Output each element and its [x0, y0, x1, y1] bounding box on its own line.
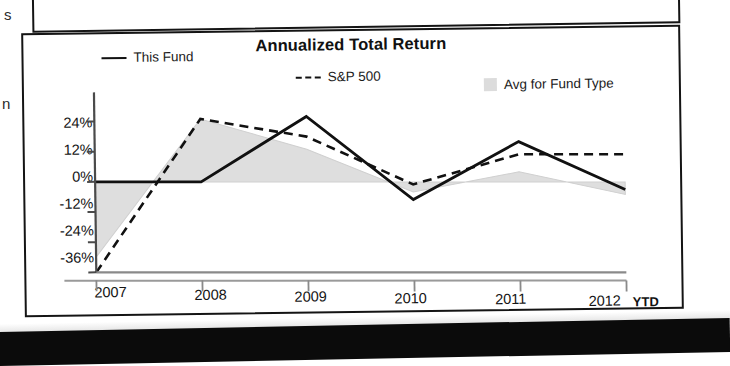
x-axis-tick-marks: [96, 273, 626, 298]
annualized-total-return-chart-panel: Annualized Total Return This Fund S&P 50…: [21, 25, 684, 318]
x-axis-line: [96, 265, 626, 279]
axis-group: [62, 85, 627, 298]
series-line-sp500: [94, 113, 626, 272]
plot-area: [23, 27, 682, 316]
page-edge-letter-mid: n: [2, 95, 10, 112]
x-axis-baseline: [64, 273, 626, 287]
series-area-avg-for-fund-type: [94, 113, 626, 257]
page-edge-letter-top: s: [4, 6, 12, 23]
